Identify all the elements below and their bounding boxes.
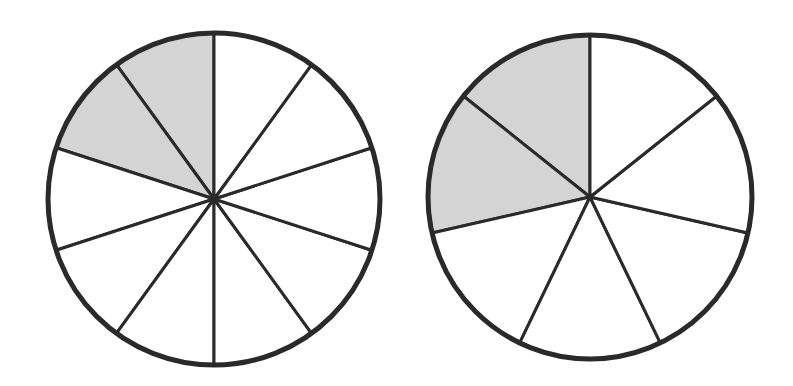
fraction-circle-left: [48, 33, 380, 365]
fraction-circle-right: [428, 35, 752, 359]
fraction-circles-figure: [0, 0, 793, 386]
